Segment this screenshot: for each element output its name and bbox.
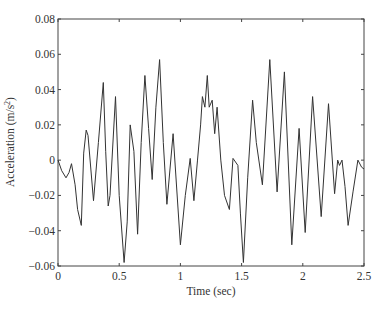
y-tick-label: −0.06 — [28, 260, 55, 272]
y-tick-label: 0.04 — [35, 84, 55, 96]
y-tick-label: 0.02 — [35, 119, 55, 131]
chart: 00.511.522.5 −0.06−0.04−0.0200.020.040.0… — [0, 0, 382, 312]
x-tick-label: 0.5 — [112, 270, 127, 282]
x-tick-label: 1 — [178, 270, 184, 282]
x-tick-label: 2 — [300, 270, 306, 282]
plot-area: 00.511.522.5 −0.06−0.04−0.0200.020.040.0… — [28, 13, 371, 282]
x-axis-ticks: 00.511.522.5 — [55, 19, 371, 282]
acceleration-line — [58, 60, 364, 263]
axes-box — [58, 19, 364, 266]
y-tick-label: 0.06 — [35, 48, 55, 60]
y-tick-label: 0 — [49, 154, 55, 166]
y-tick-label: −0.02 — [28, 189, 55, 201]
y-axis-label: Acceleration (m/s2) — [3, 97, 17, 187]
x-tick-label: 1.5 — [234, 270, 249, 282]
x-tick-label: 0 — [55, 270, 61, 282]
y-tick-label: −0.04 — [28, 225, 55, 237]
x-axis-label: Time (sec) — [186, 285, 235, 298]
y-axis-label-end: ) — [4, 97, 17, 101]
y-tick-label: 0.08 — [35, 13, 55, 25]
x-tick-label: 2.5 — [357, 270, 372, 282]
y-axis-ticks: −0.06−0.04−0.0200.020.040.060.08 — [28, 13, 364, 272]
y-axis-label-base: Acceleration (m/s — [4, 104, 17, 187]
